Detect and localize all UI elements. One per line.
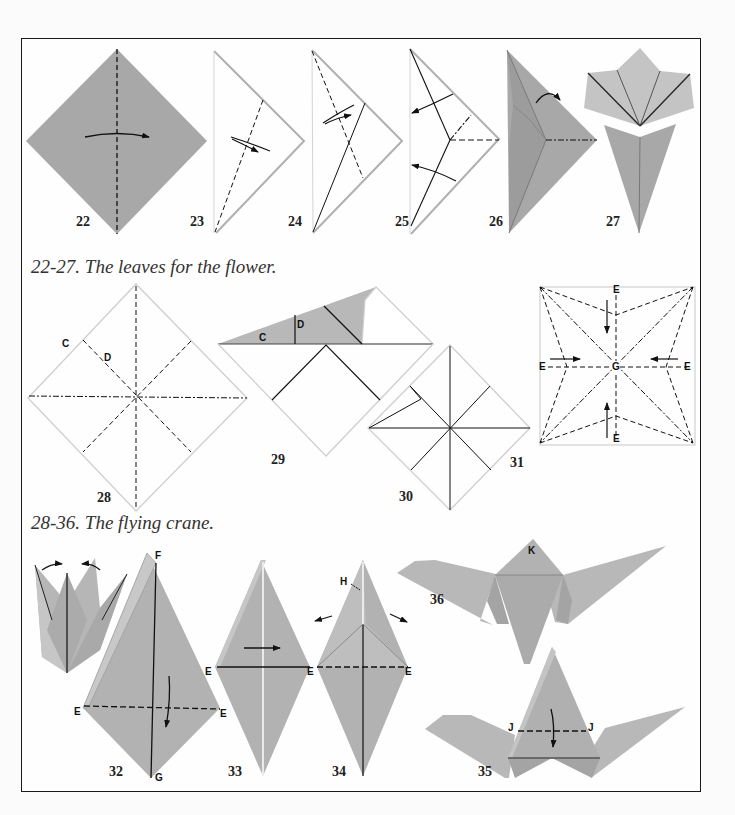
step-32-diagram (83, 553, 220, 778)
step-26-diagram (507, 50, 597, 233)
label-31-e-right: E (684, 361, 691, 372)
caption-crane: 28-36. The flying crane. (31, 512, 214, 534)
step-number-33: 33 (228, 764, 242, 780)
fold-arrow-icon (42, 564, 62, 570)
step-number-26: 26 (489, 214, 503, 230)
label-29-c: C (259, 332, 266, 343)
label-34-h: H (340, 576, 347, 587)
origami-diagrams (0, 0, 735, 815)
step-23-diagram (214, 51, 304, 233)
label-28-d: D (104, 352, 111, 363)
label-34-e-right: E (405, 666, 412, 677)
arrow-left-icon (315, 616, 332, 621)
step-number-24: 24 (288, 214, 302, 230)
step-35-diagram (425, 647, 685, 778)
step-29-diagram (218, 287, 433, 456)
step-34-diagram (315, 560, 408, 776)
step-number-28: 28 (97, 490, 111, 506)
label-29-d: D (297, 319, 304, 330)
label-31-e-bottom: E (613, 433, 620, 444)
label-28-c: C (62, 338, 69, 349)
label-32-e-right: E (220, 708, 227, 719)
label-33-e-right: E (307, 666, 314, 677)
label-32-f: F (155, 550, 161, 561)
fold-arrow-icon (412, 94, 453, 113)
label-32-e-left: E (74, 706, 81, 717)
label-31-g: G (612, 361, 620, 372)
book-page: 22 23 24 25 26 27 28 29 30 31 32 33 34 3… (0, 0, 735, 815)
caption-leaves: 22-27. The leaves for the flower. (31, 256, 276, 278)
step-number-29: 29 (271, 452, 285, 468)
label-32-g: G (155, 772, 163, 783)
step-number-34: 34 (332, 764, 346, 780)
arrow-right-icon (390, 614, 407, 622)
label-35-j-left: J (508, 722, 514, 733)
step-number-25: 25 (395, 214, 409, 230)
step-number-32: 32 (109, 764, 123, 780)
step-number-23: 23 (190, 214, 204, 230)
step-22-diagram (26, 49, 207, 234)
label-35-j-right: J (588, 722, 594, 733)
step-25-diagram (410, 49, 499, 234)
step-number-31: 31 (510, 455, 524, 471)
step-33-diagram (215, 560, 310, 776)
step-number-36: 36 (430, 592, 444, 608)
step-30-diagram (368, 345, 530, 510)
step-28-diagram (28, 284, 247, 511)
step-number-30: 30 (399, 489, 413, 505)
step-number-27: 27 (606, 214, 620, 230)
step-number-22: 22 (76, 214, 90, 230)
fold-arrow-icon (412, 165, 456, 181)
step-27-diagram (584, 48, 694, 233)
label-31-e-top: E (613, 284, 620, 295)
label-33-e-left: E (205, 666, 212, 677)
label-36-k: K (528, 545, 535, 556)
label-31-e-left: E (539, 361, 546, 372)
step-number-35: 35 (478, 764, 492, 780)
step-24-diagram (312, 50, 402, 233)
